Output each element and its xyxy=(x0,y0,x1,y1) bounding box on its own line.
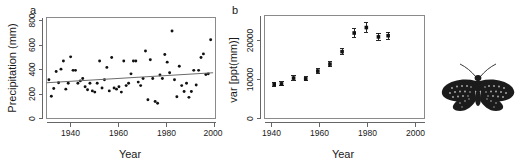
panel-b-label: b xyxy=(232,4,238,16)
data-point xyxy=(144,50,147,53)
data-point xyxy=(52,87,55,90)
data-point xyxy=(316,69,320,73)
data-point xyxy=(171,30,174,33)
data-point xyxy=(195,84,198,87)
data-point xyxy=(137,81,140,84)
moth-icon xyxy=(438,60,518,122)
y-tick-label-a-200: 200 xyxy=(27,87,37,101)
data-point xyxy=(134,60,137,63)
data-point xyxy=(127,82,130,85)
data-point xyxy=(89,82,92,85)
y-tick-label-b-10000: 10000 xyxy=(245,67,255,91)
data-point xyxy=(117,85,120,88)
x-tick-label-b-1940: 1940 xyxy=(262,128,281,138)
data-point xyxy=(209,38,212,41)
data-point xyxy=(149,58,152,61)
data-point xyxy=(192,69,195,72)
data-point xyxy=(130,72,133,75)
data-point xyxy=(151,77,154,80)
data-point xyxy=(67,82,70,85)
data-point xyxy=(352,31,356,35)
data-point xyxy=(272,83,276,87)
data-point xyxy=(166,61,169,64)
y-axis-b: 0 10000 20000 xyxy=(245,16,261,121)
data-point xyxy=(47,78,50,81)
panel-a-plot: 0 200 400 600 800 Precipitation (mm) 194… xyxy=(0,0,230,168)
data-point xyxy=(96,82,99,85)
data-point xyxy=(74,69,77,72)
data-point xyxy=(175,95,178,98)
data-point xyxy=(190,90,193,93)
y-axis-title-b: var [ppt(mm)] xyxy=(227,37,239,102)
data-point xyxy=(168,71,171,74)
data-point xyxy=(340,50,344,54)
data-point xyxy=(55,70,58,73)
y-tick-label-a-0: 0 xyxy=(27,116,37,121)
data-point xyxy=(178,65,181,68)
data-point xyxy=(187,96,190,99)
data-point xyxy=(154,100,157,103)
data-point xyxy=(84,85,87,88)
y-tick-label-b-20000: 20000 xyxy=(245,28,255,52)
data-point xyxy=(292,76,296,80)
panel-a: a 0 200 400 600 800 Precipitation (mm) xyxy=(0,0,230,168)
data-point xyxy=(146,98,149,101)
data-point xyxy=(115,88,118,91)
data-point xyxy=(108,89,111,92)
y-tick-label-a-400: 400 xyxy=(27,62,37,76)
data-point xyxy=(64,88,67,91)
x-axis-title-a: Year xyxy=(119,148,142,160)
data-point xyxy=(125,84,128,87)
scatter-points-b xyxy=(272,23,390,86)
x-tick-label-b-1980: 1980 xyxy=(358,128,377,138)
data-point xyxy=(173,78,176,81)
x-tick-label-b-1960: 1960 xyxy=(310,128,329,138)
data-point xyxy=(185,82,188,85)
x-tick-label-a-2000: 2000 xyxy=(204,128,223,138)
data-point xyxy=(120,91,123,94)
x-axis-title-b: Year xyxy=(332,148,355,160)
data-point xyxy=(183,90,186,93)
data-point xyxy=(76,82,79,85)
data-point xyxy=(197,69,200,72)
data-point xyxy=(161,77,164,80)
plot-frame-a xyxy=(47,18,216,119)
y-tick-label-b-0: 0 xyxy=(245,116,255,121)
x-axis-b: 1940 1960 1980 2000 xyxy=(262,123,425,139)
scatter-points-a xyxy=(47,30,212,105)
plot-frame-b xyxy=(265,16,425,119)
x-tick-label-a-1980: 1980 xyxy=(157,128,176,138)
data-point xyxy=(101,87,104,90)
y-axis-a: 0 200 400 600 800 xyxy=(27,13,43,121)
panel-b-plot: 0 10000 20000 var [ppt(mm)] 1940 1960 19… xyxy=(225,0,430,168)
data-point xyxy=(156,102,159,105)
data-point xyxy=(93,91,96,94)
x-tick-label-a-1960: 1960 xyxy=(109,128,128,138)
figure-container: a 0 200 400 600 800 Precipitation (mm) xyxy=(0,0,526,168)
data-point xyxy=(81,77,84,80)
data-point xyxy=(139,84,142,87)
data-point xyxy=(110,56,113,59)
data-point xyxy=(202,52,205,55)
panel-b: b 0 10000 20000 var [ppt(mm)] xyxy=(225,0,430,168)
data-point xyxy=(180,84,183,87)
data-point xyxy=(98,60,101,63)
data-point xyxy=(328,62,332,66)
data-point xyxy=(50,95,53,98)
data-point xyxy=(62,60,65,63)
data-point xyxy=(163,53,166,56)
moth-illustration xyxy=(438,60,518,122)
data-point xyxy=(105,66,108,69)
data-point xyxy=(69,55,72,58)
data-point xyxy=(122,60,125,63)
data-point xyxy=(200,56,203,59)
data-point xyxy=(386,34,390,38)
data-point xyxy=(280,82,284,86)
data-point xyxy=(86,88,89,91)
data-point xyxy=(377,35,381,39)
x-tick-label-b-2000: 2000 xyxy=(406,128,425,138)
y-tick-label-a-600: 600 xyxy=(27,38,37,52)
data-point xyxy=(142,77,145,80)
data-point xyxy=(304,77,308,81)
panel-a-label: a xyxy=(30,4,36,16)
